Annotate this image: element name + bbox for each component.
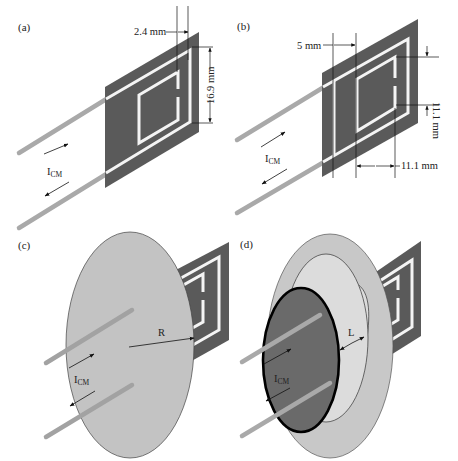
panel-label-d: (d) [240,238,253,251]
panel-d: (d) L ICM [240,234,421,458]
current-arrow-up-a [44,144,68,154]
dim-label-2.4mm: 2.4 mm [134,26,166,37]
current-label-a: ICM [47,166,63,179]
current-arrow-down-b [262,169,287,184]
panel-b: (b) 5 mm 11.1 mm 11.1 mm ICM [237,19,442,213]
current-arrow-up-b [261,132,285,147]
dim-label-11.1mm-horizontal: 11.1 mm [401,160,438,171]
wire-top-b [237,87,324,140]
wire-bottom-b [237,162,324,213]
radius-label-R: R [158,327,165,338]
panel-c: (c) R ICM [18,232,229,458]
shield-disk-c [66,232,194,458]
dim-label-16.9mm: 16.9 mm [205,67,216,104]
panel-label-a: (a) [18,21,31,34]
length-label-L: L [348,327,354,338]
dim-label-5mm: 5 mm [297,40,321,51]
panel-label-c: (c) [18,239,31,252]
current-arrow-down-a [45,182,69,196]
dark-disk-d [263,288,339,432]
wire-bottom-a [19,173,108,228]
panel-label-b: (b) [237,20,250,33]
current-label-b: ICM [265,153,281,166]
figure-canvas: (a) 2.4 mm 16.9 mm ICM (b) [0,0,458,461]
panel-a: (a) 2.4 mm 16.9 mm ICM [18,6,216,228]
dim-label-11.1mm-vertical: 11.1 mm [431,102,442,139]
wire-top-a [19,98,108,153]
